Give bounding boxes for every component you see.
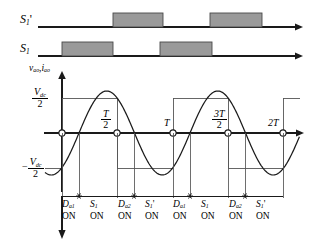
conduction-device-3: S1'	[145, 200, 154, 210]
gate-pulse-S1-prime-1	[210, 13, 262, 27]
gate-signal-label-S1-prime: S1'	[20, 13, 32, 26]
conduction-device-0: Da1	[62, 200, 75, 210]
gate-pulse-S1-1	[160, 42, 212, 56]
conduction-device-5: S1	[201, 200, 209, 210]
conduction-device-4: Da1	[173, 200, 186, 210]
gate-pulse-S1-0	[62, 42, 113, 56]
time-tick-label-2: 3T2	[212, 109, 227, 130]
time-tick-label-1: T	[164, 118, 170, 128]
conduction-state-2: ON	[118, 212, 132, 222]
time-axis-arrowhead	[296, 129, 304, 136]
voltage-axis-arrowhead	[58, 71, 66, 79]
conduction-state-4: ON	[173, 212, 187, 222]
switching-waveform-figure: S1'S1vao,iao Vdc2 − Vdc2 T2 T 3T2 2TDa1O…	[0, 0, 310, 244]
gate-axis-S1-arrowhead	[295, 52, 303, 59]
conduction-device-1: S1	[90, 200, 98, 210]
gate-signal-label-S1: S1	[20, 42, 30, 55]
conduction-device-2: Da2	[118, 200, 131, 210]
gate-pulse-S1-prime-0	[113, 13, 163, 27]
conduction-state-6: ON	[229, 212, 243, 222]
time-tick-label-3: 2T	[268, 118, 279, 128]
conduction-state-0: ON	[62, 212, 76, 222]
conduction-down-arrowhead	[58, 230, 65, 239]
axis-quantity-label: vao,iao	[29, 64, 50, 74]
conduction-device-7: S1'	[256, 200, 265, 210]
conduction-state-3: ON	[145, 212, 159, 222]
conduction-state-1: ON	[90, 212, 104, 222]
conduction-state-7: ON	[256, 212, 270, 222]
gate-axis-S1-prime-arrowhead	[295, 23, 303, 30]
voltage-level-label-negative: − Vdc2	[22, 157, 44, 179]
voltage-level-label-positive: Vdc2	[32, 87, 48, 109]
conduction-device-6: Da2	[229, 200, 242, 210]
time-tick-label-0: T2	[101, 109, 111, 130]
conduction-state-5: ON	[201, 212, 215, 222]
